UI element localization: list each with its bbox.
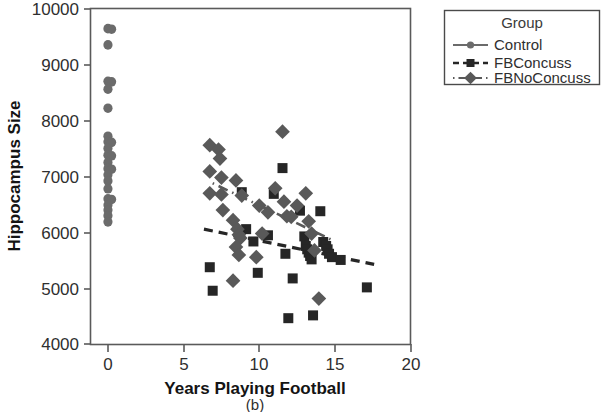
data-point-square <box>253 268 263 278</box>
y-tick-label: 10000 <box>32 0 79 19</box>
y-tick-label: 7000 <box>41 168 79 187</box>
x-tick-label: 20 <box>402 355 421 374</box>
data-point-square <box>315 206 325 216</box>
figure-panel: 10000 9000 8000 7000 6000 5000 4000 Hipp… <box>0 0 606 412</box>
data-point-circle <box>103 184 112 194</box>
x-tick-label: 5 <box>179 355 188 374</box>
legend: Group Control FBConcuss FBNoConcuss <box>445 11 600 87</box>
legend-marker-circle-icon <box>467 41 474 48</box>
data-point-square <box>208 286 218 296</box>
x-tick-label: 0 <box>103 355 112 374</box>
data-point-circle <box>103 40 112 50</box>
legend-title: Group <box>501 14 543 31</box>
y-tick-label: 9000 <box>41 56 79 75</box>
data-point-circle <box>103 217 112 227</box>
data-point-square <box>308 310 318 320</box>
x-tick-label: 15 <box>326 355 345 374</box>
y-tick-label: 6000 <box>41 224 79 243</box>
data-point-square <box>278 163 288 173</box>
data-point-square <box>327 252 337 262</box>
data-point-circle <box>103 84 112 94</box>
data-point-square <box>283 313 293 323</box>
scatter-plot-svg: 10000 9000 8000 7000 6000 5000 4000 Hipp… <box>0 0 606 412</box>
y-tick-label: 4000 <box>41 335 79 354</box>
data-point-square <box>336 255 346 265</box>
data-point-square <box>288 273 298 283</box>
y-tick-label: 8000 <box>41 112 79 131</box>
y-tick-label: 5000 <box>41 280 79 299</box>
figure-caption: (b) <box>246 396 264 412</box>
data-point-circle <box>107 24 116 34</box>
legend-label-control: Control <box>494 36 542 53</box>
data-point-square <box>248 236 258 246</box>
data-point-square <box>280 249 290 259</box>
legend-label-fbnoconcuss: FBNoConcuss <box>494 69 591 86</box>
data-point-square <box>362 282 372 292</box>
data-point-circle <box>103 103 112 113</box>
y-axis-title: Hippocampus Size <box>5 100 24 251</box>
data-point-square <box>205 262 215 272</box>
x-tick-label: 10 <box>250 355 269 374</box>
legend-marker-square-icon <box>467 59 475 67</box>
